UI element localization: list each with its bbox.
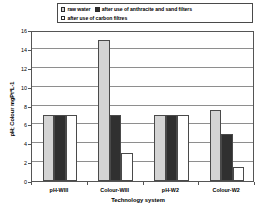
bar-carbon-filtres-ph-wiii: [66, 115, 78, 181]
x-tick-mark: [254, 182, 255, 185]
legend-label-anthracite-sand: after use of anthracite and sand filters: [102, 5, 192, 14]
x-axis-title: Technology system: [0, 197, 276, 203]
plot-area: [31, 31, 254, 182]
x-category-label-ph-wiii: pH-WIII: [50, 187, 69, 193]
bar-raw-water-colour-wiii: [98, 40, 110, 181]
carbon-filtres-swatch: [61, 16, 65, 21]
legend-label-raw-water: raw water: [67, 5, 90, 14]
x-tick-mark: [31, 182, 32, 185]
legend-entry-raw-water: raw water: [61, 5, 90, 14]
bar-raw-water-ph-w2: [154, 115, 166, 181]
legend-entry-anthracite-sand: after use of anthracite and sand filters: [95, 5, 192, 14]
y-axis-title: pH; Colour mgPt*L-1: [9, 59, 15, 159]
legend-label-carbon-filtres: after use of carbon filtres: [67, 14, 127, 23]
y-tick-label: 4: [24, 141, 27, 147]
legend-row-2: after use of carbon filtres: [61, 14, 250, 23]
bar-anthracite-sand-colour-w2: [221, 134, 233, 181]
y-tick-label: 16: [21, 28, 27, 34]
bar-carbon-filtres-colour-w2: [233, 167, 245, 181]
y-tick-label: 8: [24, 104, 27, 110]
y-tick-label: 12: [21, 66, 27, 72]
x-category-label-ph-w2: pH-W2: [162, 187, 179, 193]
anthracite-sand-swatch: [95, 7, 99, 12]
bar-raw-water-ph-wiii: [43, 115, 55, 181]
bar-chart: raw water after use of anthracite and sa…: [0, 0, 276, 216]
y-tick-label: 6: [24, 122, 27, 128]
x-tick-mark: [143, 182, 144, 185]
bar-anthracite-sand-ph-wiii: [54, 115, 66, 181]
bar-anthracite-sand-ph-w2: [166, 115, 178, 181]
x-tick-mark: [198, 182, 199, 185]
legend-row-1: raw water after use of anthracite and sa…: [61, 5, 250, 14]
x-category-label-colour-w2: Colour-W2: [213, 187, 240, 193]
bar-raw-water-colour-w2: [210, 110, 222, 181]
y-tick-label: 14: [21, 47, 27, 53]
raw-water-swatch: [61, 7, 65, 12]
chart-legend: raw water after use of anthracite and sa…: [57, 3, 253, 23]
x-category-label-colour-wiii: Colour-WIII: [100, 187, 129, 193]
y-tick-label: 0: [24, 179, 27, 185]
y-axis: 0246810121416: [0, 0, 31, 216]
x-tick-mark: [87, 182, 88, 185]
bar-series-container: [32, 32, 253, 181]
y-tick-label: 10: [21, 85, 27, 91]
y-tick-label: 2: [24, 160, 27, 166]
legend-entry-carbon-filtres: after use of carbon filtres: [61, 14, 127, 23]
bar-carbon-filtres-ph-w2: [177, 115, 189, 181]
bar-anthracite-sand-colour-wiii: [110, 115, 122, 181]
bar-carbon-filtres-colour-wiii: [121, 153, 133, 181]
